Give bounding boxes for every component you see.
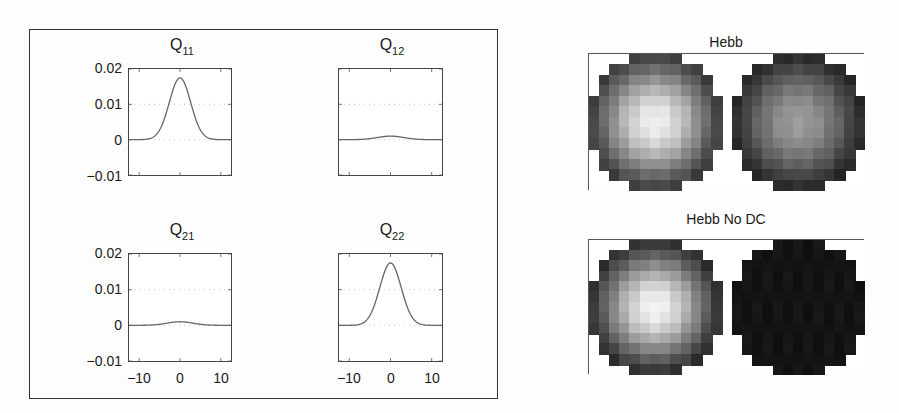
q21-ytick: 0: [62, 318, 122, 332]
q21-title: Q21: [152, 221, 212, 242]
q22-plot: [339, 254, 442, 361]
hebb-no-dc-image: [588, 239, 864, 374]
q11-title: Q11: [152, 36, 212, 57]
q11-ytick: 0.01: [62, 97, 122, 111]
q11-ytick: 0.02: [62, 61, 122, 75]
hebb-no-dc-title: Hebb No DC: [626, 211, 826, 227]
q11-ytick: 0: [62, 133, 122, 147]
q11-axes: [128, 68, 232, 176]
q21-ytick: −0.01: [62, 354, 122, 368]
q21-ytick: 0.02: [62, 246, 122, 260]
q12-axes: [338, 68, 443, 176]
hebb-no-dc-heatmap: [589, 240, 865, 375]
q21-xtick: −10: [119, 371, 159, 385]
q12-plot: [339, 69, 442, 175]
q21-plot: [129, 254, 231, 361]
hebb-image: [588, 53, 864, 190]
q11-ytick: −0.01: [62, 169, 122, 183]
q22-xtick: 0: [371, 371, 411, 385]
q21-ytick: 0.01: [62, 282, 122, 296]
q11-plot: [129, 69, 231, 175]
q12-title: Q12: [362, 36, 422, 57]
q22-title: Q22: [362, 221, 422, 242]
q22-xtick: −10: [329, 371, 369, 385]
q21-xtick: 0: [160, 371, 200, 385]
hebb-title: Hebb: [626, 34, 826, 50]
q22-xtick: 10: [412, 371, 452, 385]
q22-axes: [338, 253, 443, 362]
q21-axes: [128, 253, 232, 362]
q21-xtick: 10: [201, 371, 241, 385]
hebb-heatmap: [589, 54, 865, 191]
